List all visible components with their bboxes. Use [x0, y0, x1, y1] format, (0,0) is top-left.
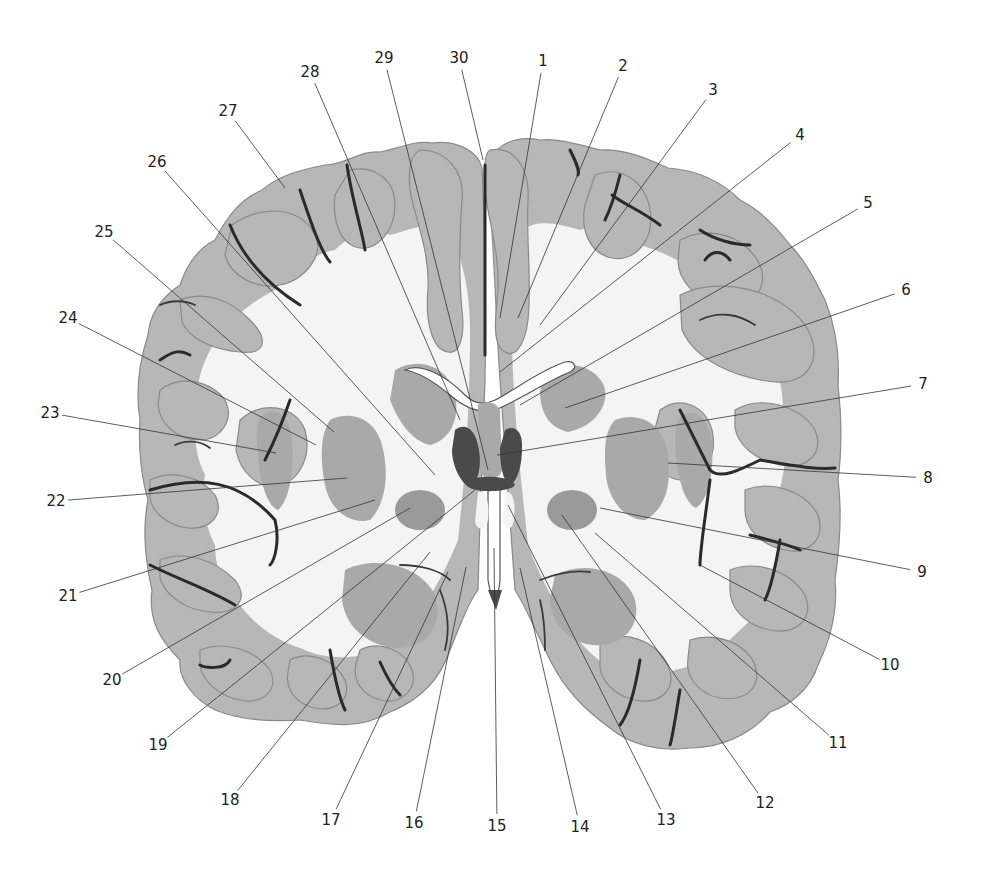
label-number: 27 [218, 102, 237, 120]
label-number: 17 [321, 811, 340, 829]
leader-line [235, 121, 285, 188]
label-number: 29 [374, 49, 393, 67]
label-number: 11 [828, 734, 847, 752]
label-number: 25 [94, 223, 113, 241]
label-number: 6 [901, 281, 911, 299]
label-number: 7 [918, 375, 928, 393]
label-number: 21 [58, 587, 77, 605]
left-globus-pallidus [395, 490, 445, 530]
label-number: 12 [755, 794, 774, 812]
coronal-brain-section-figure: 1234567891011121314151617181920212223242… [0, 0, 988, 869]
label-number: 9 [917, 563, 927, 581]
label-number: 18 [220, 791, 239, 809]
structure-label-30: 30 [449, 49, 483, 161]
label-number: 14 [570, 818, 589, 836]
label-number: 28 [300, 63, 319, 81]
label-number: 20 [102, 671, 121, 689]
label-number: 15 [487, 817, 506, 835]
label-number: 5 [863, 194, 873, 212]
brain-section [138, 139, 841, 749]
label-number: 19 [148, 736, 167, 754]
label-number: 8 [923, 469, 933, 487]
label-number: 10 [880, 656, 899, 674]
label-number: 3 [708, 81, 718, 99]
label-number: 4 [795, 126, 805, 144]
label-number: 30 [449, 49, 468, 67]
structure-label-27: 27 [218, 102, 285, 189]
leader-line [462, 70, 483, 160]
label-number: 1 [538, 52, 548, 70]
label-number: 2 [618, 57, 628, 75]
label-number: 22 [46, 492, 65, 510]
label-number: 26 [147, 153, 166, 171]
label-number: 13 [656, 811, 675, 829]
right-globus-pallidus [547, 490, 597, 530]
label-number: 16 [404, 814, 423, 832]
label-number: 24 [58, 309, 77, 327]
label-number: 23 [40, 404, 59, 422]
septum [478, 402, 502, 478]
